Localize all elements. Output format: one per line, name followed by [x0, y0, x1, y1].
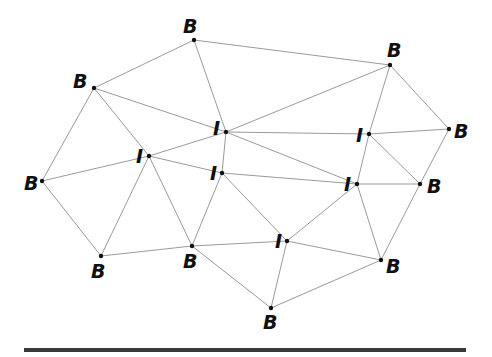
- node-label-I5: I: [344, 173, 351, 195]
- node-B10: [269, 306, 273, 310]
- node-label-B1: B: [183, 15, 197, 37]
- node-I5: [355, 182, 359, 186]
- edge-B8-B10: [192, 246, 271, 308]
- edge-B3-I2: [369, 65, 390, 134]
- node-label-I2: I: [356, 124, 363, 146]
- node-label-B10: B: [263, 311, 277, 333]
- node-label-I6: I: [275, 230, 282, 252]
- edge-B5-B7: [42, 181, 101, 256]
- mesh-diagram: BBBBBBBBBBIIIIII: [0, 0, 492, 357]
- node-B7: [99, 254, 103, 258]
- edge-B1-I1: [194, 40, 226, 132]
- edge-I1-I2: [226, 132, 369, 134]
- node-B6: [418, 182, 422, 186]
- edge-I3-B7: [101, 156, 149, 256]
- edge-I3-B8: [149, 156, 192, 246]
- node-B2: [92, 86, 96, 90]
- edge-B2-I1: [94, 88, 226, 132]
- edge-I4-I5: [222, 173, 357, 184]
- edge-B2-B5: [42, 88, 94, 181]
- node-label-B4: B: [454, 120, 468, 142]
- node-B3: [388, 63, 392, 67]
- node-label-B3: B: [387, 39, 401, 61]
- node-label-I3: I: [136, 145, 143, 167]
- edge-I6-B9: [287, 241, 381, 260]
- node-B9: [379, 258, 383, 262]
- node-label-B8: B: [183, 250, 197, 272]
- edge-I4-B8: [192, 173, 222, 246]
- node-I3: [147, 154, 151, 158]
- node-label-I4: I: [210, 162, 217, 184]
- node-I4: [220, 171, 224, 175]
- bottom-divider-bar: [24, 348, 466, 352]
- node-B5: [40, 179, 44, 183]
- node-label-B7: B: [91, 260, 105, 282]
- node-I1: [224, 130, 228, 134]
- edge-I2-B6: [369, 134, 420, 184]
- label-layer: BBBBBBBBBBIIIIII: [24, 15, 468, 333]
- edge-B8-I6: [192, 241, 287, 246]
- node-label-B2: B: [73, 70, 87, 92]
- edge-B3-I1: [226, 65, 390, 132]
- node-I2: [367, 132, 371, 136]
- node-B8: [190, 244, 194, 248]
- edge-B10-B9: [271, 260, 381, 308]
- edge-B4-I2: [369, 129, 449, 134]
- edge-I5-B9: [357, 184, 381, 260]
- edge-I1-I5: [226, 132, 357, 184]
- node-B4: [447, 127, 451, 131]
- edge-I1-I4: [222, 132, 226, 173]
- node-I6: [285, 239, 289, 243]
- edge-B1-B3: [194, 40, 390, 65]
- node-label-I1: I: [213, 117, 220, 139]
- edge-I3-B5: [42, 156, 149, 181]
- edge-B3-B4: [390, 65, 449, 129]
- node-B1: [192, 38, 196, 42]
- node-label-B9: B: [386, 255, 400, 277]
- edge-B6-B9: [381, 184, 420, 260]
- node-label-B6: B: [427, 175, 441, 197]
- edge-B7-B8: [101, 246, 192, 256]
- edge-B1-B2: [94, 40, 194, 88]
- node-label-B5: B: [24, 172, 38, 194]
